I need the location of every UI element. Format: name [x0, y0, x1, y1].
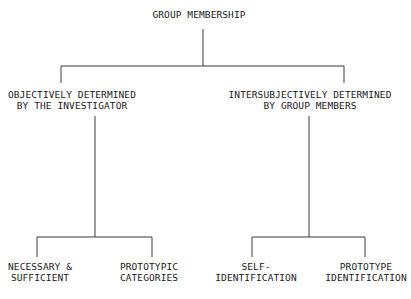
- node-prototypic-categories: PROTOTYPIC CATEGORIES: [120, 261, 178, 283]
- node-label-line1: PROTOTYPE: [325, 261, 406, 272]
- node-group-membership: GROUP MEMBERSHIP: [152, 9, 245, 20]
- node-label-line2: IDENTIFICATION: [215, 272, 296, 283]
- node-label: GROUP MEMBERSHIP: [152, 9, 245, 20]
- node-label-line2: CATEGORIES: [120, 272, 178, 283]
- node-label-line1: NECESSARY &: [8, 261, 72, 272]
- node-label-line1: SELF-: [215, 261, 296, 272]
- connector-lines: [0, 0, 411, 299]
- node-label-line1: PROTOTYPIC: [120, 261, 178, 272]
- node-objectively-determined: OBJECTIVELY DETERMINED BY THE INVESTIGAT…: [8, 89, 136, 111]
- node-label-line2: BY GROUP MEMBERS: [229, 100, 392, 111]
- node-self-identification: SELF- IDENTIFICATION: [215, 261, 296, 283]
- node-label-line2: SUFFICIENT: [8, 272, 72, 283]
- node-label-line2: BY THE INVESTIGATOR: [8, 100, 136, 111]
- node-label-line1: OBJECTIVELY DETERMINED: [8, 89, 136, 100]
- node-label-line1: INTERSUBJECTIVELY DETERMINED: [229, 89, 392, 100]
- node-prototype-identification: PROTOTYPE IDENTIFICATION: [325, 261, 406, 283]
- node-necessary-sufficient: NECESSARY & SUFFICIENT: [8, 261, 72, 283]
- node-intersubjectively-determined: INTERSUBJECTIVELY DETERMINED BY GROUP ME…: [229, 89, 392, 111]
- node-label-line2: IDENTIFICATION: [325, 272, 406, 283]
